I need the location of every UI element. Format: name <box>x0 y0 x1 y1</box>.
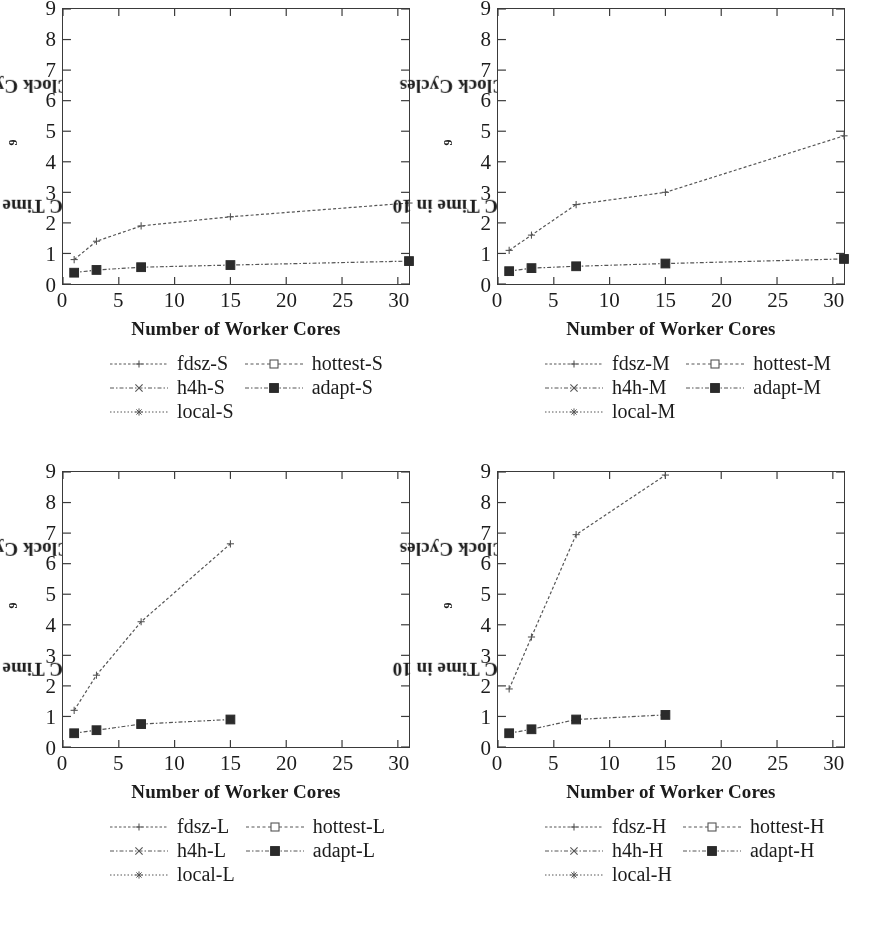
x-tick-label: 20 <box>711 753 732 774</box>
marker-star <box>135 408 142 415</box>
legend-key-adapt-M <box>686 380 744 396</box>
panel-medium: GC Time in 109 Clock Cycles 0123456789 0… <box>435 0 870 463</box>
marker-plus <box>93 672 100 679</box>
legend-label-local-L: local-L <box>177 863 237 886</box>
x-tick-label: 25 <box>332 753 353 774</box>
y-tick-label: 8 <box>481 28 492 49</box>
marker-filled-square <box>661 711 670 720</box>
legend-key-h4h-H <box>545 843 603 859</box>
legend-label-local-S: local-S <box>177 400 236 423</box>
legend: fdsz-Shottest-Sh4h-Sadapt-Slocal-S <box>0 352 435 457</box>
marker-filled-square <box>137 263 146 272</box>
plot-block: GC Time in 109 Clock Cycles 0123456789 0… <box>435 0 870 348</box>
marker-filled-square <box>226 261 235 270</box>
y-tick-label: 2 <box>481 213 492 234</box>
x-tick-label: 15 <box>220 290 241 311</box>
marker-plus <box>506 247 513 254</box>
marker-plus <box>573 201 580 208</box>
legend-label-h4h-H: h4h-H <box>612 839 674 862</box>
legend-items: fdsz-Mhottest-Mh4h-Madapt-Mlocal-M <box>545 352 833 423</box>
x-tick-label: 25 <box>332 290 353 311</box>
legend-label-hottest-M: hottest-M <box>753 352 833 375</box>
marker-filled-square <box>527 264 536 273</box>
legend: fdsz-Hhottest-Hh4h-Hadapt-Hlocal-H <box>435 815 870 920</box>
legend-label-adapt-H: adapt-H <box>750 839 826 862</box>
y-tick-label: 3 <box>46 645 57 666</box>
x-tick-label: 5 <box>548 753 559 774</box>
y-axis-label-exponent: 9 <box>5 603 19 609</box>
y-tick-label: 6 <box>481 553 492 574</box>
y-tick-label: 0 <box>481 738 492 759</box>
x-tick-label: 20 <box>276 290 297 311</box>
legend-label-adapt-S: adapt-S <box>312 376 385 399</box>
marker-open-square <box>270 360 278 368</box>
x-tick-label: 30 <box>388 290 409 311</box>
legend-key-hottest-H <box>683 819 741 835</box>
legend-key-local-M <box>545 404 603 420</box>
marker-plus <box>138 222 145 229</box>
marker-filled-square <box>572 715 581 724</box>
y-axis-label: GC Time in 109 Clock Cycles <box>437 463 467 763</box>
y-tick-label: 5 <box>46 584 57 605</box>
y-axis-label-exponent: 9 <box>5 140 19 146</box>
plot-area <box>62 8 410 285</box>
marker-plus <box>662 189 669 196</box>
x-tick-label: 30 <box>823 753 844 774</box>
x-tick-label: 10 <box>164 753 185 774</box>
marker-filled-square <box>572 262 581 271</box>
legend-key-adapt-S <box>245 380 303 396</box>
plot-area <box>497 8 845 285</box>
marker-filled-square <box>405 257 414 266</box>
marker-plus <box>528 232 535 239</box>
y-tick-label: 6 <box>46 90 57 111</box>
legend-key-local-S <box>110 404 168 420</box>
marker-star <box>570 871 577 878</box>
legend: fdsz-Mhottest-Mh4h-Madapt-Mlocal-M <box>435 352 870 457</box>
marker-filled-square <box>226 715 235 724</box>
legend-label-fdsz-M: fdsz-M <box>612 352 677 375</box>
marker-plus <box>227 213 234 220</box>
y-tick-label: 1 <box>46 244 57 265</box>
x-tick-label: 10 <box>599 290 620 311</box>
x-axis-label: Number of Worker Cores <box>62 318 410 340</box>
plot-block: GC Time in 109 Clock Cycles 0123456789 0… <box>0 463 435 811</box>
y-tick-label: 4 <box>481 614 492 635</box>
x-tick-labels: 051015202530 <box>497 290 845 320</box>
y-tick-label: 3 <box>481 182 492 203</box>
y-tick-label: 0 <box>46 738 57 759</box>
marker-filled-square <box>505 267 514 276</box>
marker-filled-square <box>708 846 717 855</box>
y-tick-label: 9 <box>46 461 57 482</box>
marker-plus <box>71 256 78 263</box>
marker-plus <box>71 707 78 714</box>
legend: fdsz-Lhottest-Lh4h-Ladapt-Llocal-L <box>0 815 435 920</box>
marker-star <box>570 408 577 415</box>
marker-open-square <box>708 823 716 831</box>
legend-label-adapt-M: adapt-M <box>753 376 833 399</box>
y-tick-label: 7 <box>481 522 492 543</box>
y-tick-label: 4 <box>46 151 57 172</box>
legend-label-fdsz-L: fdsz-L <box>177 815 237 838</box>
legend-key-fdsz-H <box>545 819 603 835</box>
x-tick-label: 0 <box>492 290 503 311</box>
y-axis-label-prefix: GC Time in 10 <box>392 195 512 217</box>
y-tick-label: 2 <box>481 676 492 697</box>
legend-key-local-H <box>545 867 603 883</box>
marker-star <box>135 871 142 878</box>
marker-filled-square <box>711 383 720 392</box>
marker-plus <box>93 238 100 245</box>
legend-label-h4h-L: h4h-L <box>177 839 237 862</box>
y-tick-label: 4 <box>481 151 492 172</box>
x-tick-label: 5 <box>113 290 124 311</box>
x-tick-label: 15 <box>655 753 676 774</box>
y-tick-labels: 0123456789 <box>30 0 58 292</box>
y-tick-label: 8 <box>46 491 57 512</box>
y-axis-label: GC Time in 109 Clock Cycles <box>2 463 32 763</box>
x-tick-label: 20 <box>711 290 732 311</box>
legend-key-hottest-M <box>686 356 744 372</box>
x-tick-label: 15 <box>655 290 676 311</box>
legend-label-h4h-S: h4h-S <box>177 376 236 399</box>
series-line-adapt-M <box>509 259 844 271</box>
y-tick-label: 7 <box>46 522 57 543</box>
x-tick-label: 0 <box>57 753 68 774</box>
